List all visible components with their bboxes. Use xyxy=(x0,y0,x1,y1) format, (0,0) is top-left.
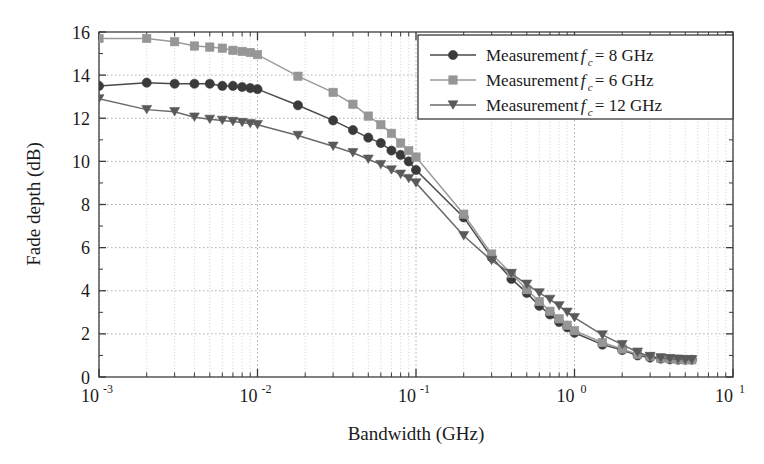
data-point-marker xyxy=(94,81,103,90)
data-point-marker xyxy=(460,210,468,218)
y-tick-label: 16 xyxy=(72,23,90,43)
y-tick-label: 12 xyxy=(72,109,90,129)
data-point-marker xyxy=(142,78,151,87)
data-point-marker xyxy=(218,44,226,52)
y-tick-label: 14 xyxy=(72,66,90,86)
data-point-marker xyxy=(238,47,246,55)
data-point-marker xyxy=(205,79,214,88)
data-point-marker xyxy=(190,79,199,88)
data-point-marker xyxy=(570,326,578,334)
data-point-marker xyxy=(363,155,373,163)
svg-text:10: 10 xyxy=(81,386,99,406)
data-point-marker xyxy=(348,149,358,157)
legend-label-prefix: Measurement xyxy=(486,46,579,65)
data-point-marker xyxy=(329,116,338,125)
x-axis-label: Bandwidth (GHz) xyxy=(348,423,485,445)
data-point-marker xyxy=(293,101,302,110)
data-point-marker xyxy=(376,160,386,168)
y-tick-label: 0 xyxy=(81,368,90,388)
chart-legend: Measurement fc = 8 GHzMeasurement fc = 6… xyxy=(418,35,733,119)
data-point-marker xyxy=(228,81,237,90)
svg-text:-3: -3 xyxy=(103,382,113,396)
data-point-marker xyxy=(253,50,261,58)
data-point-marker xyxy=(412,153,420,161)
data-point-marker xyxy=(348,126,357,135)
svg-text:10: 10 xyxy=(240,386,258,406)
data-point-marker xyxy=(597,331,607,339)
y-tick-label: 6 xyxy=(81,238,90,258)
data-point-marker xyxy=(555,315,563,323)
legend-marker-square xyxy=(449,76,457,84)
chart-figure: 10-310-210-1100101 0246810121416 Bandwid… xyxy=(0,0,764,464)
data-point-marker xyxy=(206,43,214,51)
data-point-marker xyxy=(349,100,357,108)
x-tick-label: 10-2 xyxy=(240,382,272,406)
data-point-marker xyxy=(329,88,337,96)
svg-text:0: 0 xyxy=(581,382,587,396)
data-point-marker xyxy=(229,46,237,54)
data-point-marker xyxy=(293,131,303,139)
data-point-marker xyxy=(387,146,396,155)
y-tick-label: 2 xyxy=(81,324,90,344)
data-point-marker xyxy=(170,38,178,46)
x-axis-tick-labels: 10-310-210-1100101 xyxy=(81,382,745,406)
svg-text:-1: -1 xyxy=(420,382,430,396)
x-tick-label: 10-1 xyxy=(398,382,430,406)
data-point-marker xyxy=(376,138,385,147)
data-point-marker xyxy=(190,42,198,50)
data-point-marker xyxy=(386,166,396,174)
data-point-marker xyxy=(387,129,395,137)
data-point-marker xyxy=(95,34,103,42)
legend-label-prefix: Measurement xyxy=(486,71,579,90)
x-tick-label: 101 xyxy=(715,382,745,406)
svg-text:1: 1 xyxy=(739,382,745,396)
y-tick-label: 8 xyxy=(81,195,90,215)
data-point-marker xyxy=(253,85,262,94)
data-point-marker xyxy=(170,79,179,88)
data-point-marker xyxy=(377,121,385,129)
legend-marker-circle xyxy=(448,50,457,59)
legend-label-prefix: Measurement xyxy=(486,96,579,115)
fade-depth-line-chart: 10-310-210-1100101 0246810121416 Bandwid… xyxy=(0,0,764,464)
data-point-marker xyxy=(218,81,227,90)
data-point-marker xyxy=(143,34,151,42)
data-point-marker xyxy=(411,165,420,174)
data-point-marker xyxy=(396,139,404,147)
legend-label-suffix: = 6 GHz xyxy=(595,71,654,90)
svg-text:-2: -2 xyxy=(262,382,272,396)
y-axis-tick-labels: 0246810121416 xyxy=(72,23,90,388)
svg-text:10: 10 xyxy=(398,386,416,406)
data-point-marker xyxy=(328,142,338,150)
y-tick-label: 4 xyxy=(81,281,90,301)
data-point-marker xyxy=(364,112,372,120)
y-tick-label: 10 xyxy=(72,152,90,172)
legend-label-subscript: c xyxy=(588,106,593,118)
data-point-marker xyxy=(546,307,554,315)
data-point-marker xyxy=(238,82,247,91)
data-point-marker xyxy=(396,150,405,159)
x-tick-label: 100 xyxy=(557,382,587,406)
data-series xyxy=(94,78,696,364)
svg-text:10: 10 xyxy=(557,386,575,406)
legend-label-subscript: c xyxy=(588,56,593,68)
data-point-marker xyxy=(294,72,302,80)
data-point-marker xyxy=(535,297,543,305)
data-point-marker xyxy=(94,95,104,103)
legend-label-suffix: = 12 GHz xyxy=(595,96,663,115)
data-point-marker xyxy=(364,133,373,142)
svg-text:10: 10 xyxy=(715,386,733,406)
y-axis-label: Fade depth (dB) xyxy=(23,142,45,265)
legend-label-suffix: = 8 GHz xyxy=(595,46,654,65)
legend-label-subscript: c xyxy=(588,81,593,93)
